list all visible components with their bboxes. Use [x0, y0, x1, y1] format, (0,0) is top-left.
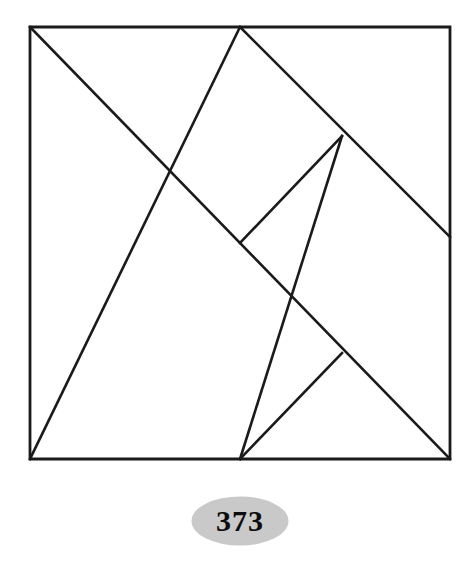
figure-number-badge: 373: [191, 496, 289, 546]
tangram-svg: [0, 0, 472, 480]
tangram-figure: [0, 0, 472, 480]
figure-number-label: 373: [191, 496, 289, 546]
page-root: 373: [0, 0, 472, 574]
caption-area: 373: [0, 480, 472, 574]
